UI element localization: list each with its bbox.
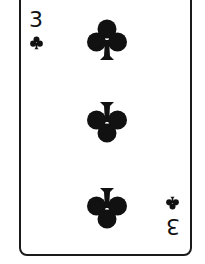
club-icon [30,36,43,50]
club-icon [167,196,180,210]
club-icon [87,18,127,62]
club-icon [87,186,127,230]
card-rank: 3 [166,214,180,238]
corner-index-top-left: 3 [29,8,43,50]
card-rank: 3 [29,8,43,32]
club-icon [87,100,127,144]
corner-index-bottom-right: 3 [166,196,180,238]
